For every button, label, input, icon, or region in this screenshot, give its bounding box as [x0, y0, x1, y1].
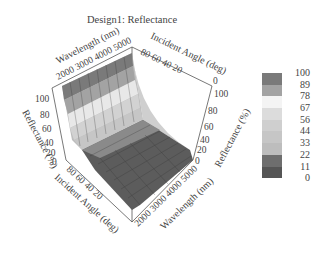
- axis-label-wavelength-bottom: Wavelength (nm): [158, 175, 216, 232]
- svg-text:80: 80: [208, 106, 218, 116]
- colorbar: [262, 73, 282, 178]
- svg-text:100: 100: [35, 94, 50, 104]
- svg-text:20: 20: [197, 145, 207, 155]
- svg-text:0: 0: [195, 156, 200, 166]
- axis-label-reflectance-right: Reflectance (%): [212, 107, 253, 170]
- tick-angle-zero: 0: [213, 76, 218, 86]
- colorbar-tick: 11: [290, 161, 310, 173]
- colorbar-labels: 100 89 78 67 56 44 33 22 11 0: [290, 67, 310, 184]
- colorbar-tick: 100: [290, 67, 310, 79]
- svg-text:80: 80: [40, 110, 50, 120]
- colorbar-tick: 67: [290, 102, 310, 114]
- colorbar-tick: 44: [290, 125, 310, 137]
- colorbar-tick: 33: [290, 137, 310, 149]
- colorbar-tick: 22: [290, 149, 310, 161]
- svg-text:40: 40: [200, 135, 210, 145]
- colorbar-tick: 89: [290, 79, 310, 91]
- svg-text:100: 100: [214, 89, 229, 99]
- axis-label-angle-top: Incident Angle (deg): [149, 30, 229, 77]
- colorbar-tick: 56: [290, 114, 310, 126]
- colorbar-tick: 0: [290, 172, 310, 184]
- colorbar-tick: 78: [290, 90, 310, 102]
- svg-text:60: 60: [204, 122, 214, 132]
